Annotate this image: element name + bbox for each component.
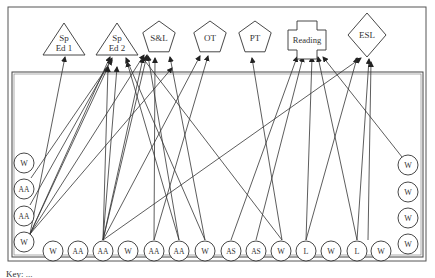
referral-arrow — [126, 58, 205, 240]
student-label: AA — [19, 185, 30, 194]
student-node: W — [398, 182, 418, 202]
student-node: AS — [221, 241, 241, 261]
caption-fragment: Key: ... — [6, 269, 33, 278]
service-label: Ed 1 — [56, 43, 73, 53]
service-label: PT — [250, 33, 261, 43]
student-label: AS — [226, 247, 236, 256]
referral-arrow — [154, 58, 155, 240]
service-node-sl: S&L — [143, 21, 175, 52]
student-node: AA — [14, 179, 34, 199]
referral-arrow — [142, 57, 282, 240]
student-nodes: WAAAAWWAAAAWAAAAWASASWLWLWWWWW — [14, 153, 418, 261]
student-node: W — [398, 155, 418, 175]
student-node: W — [371, 241, 391, 261]
student-label: W — [404, 161, 412, 170]
student-label: L — [304, 247, 309, 256]
referral-arrow — [31, 60, 112, 178]
student-label: W — [20, 238, 28, 247]
referral-arrow — [252, 58, 282, 240]
inner-frame — [12, 72, 423, 257]
student-node: AS — [246, 241, 266, 261]
service-label: Sp — [59, 33, 69, 43]
referral-arrow — [30, 68, 172, 234]
student-label: AS — [251, 247, 261, 256]
student-label: W — [124, 247, 132, 256]
referral-arrow — [30, 55, 144, 234]
inner-frame-inner-line — [14, 74, 421, 255]
student-node: AA — [169, 241, 189, 261]
service-node-esl: ESL — [348, 13, 386, 57]
student-label: AA — [19, 212, 30, 221]
student-node: W — [195, 241, 215, 261]
service-node-ot: OT — [194, 21, 226, 52]
referral-arrow — [103, 55, 147, 240]
student-label: W — [20, 159, 28, 168]
student-node: L — [347, 241, 367, 261]
student-node: W — [321, 241, 341, 261]
student-node: L — [296, 241, 316, 261]
service-label: OT — [204, 33, 216, 43]
service-node-sped2: SpEd 2 — [96, 23, 138, 55]
referral-arrow — [368, 62, 371, 240]
service-label: Reading — [293, 35, 322, 45]
student-label: W — [404, 214, 412, 223]
student-label: W — [377, 247, 385, 256]
student-node: W — [43, 241, 63, 261]
service-node-reading: Reading — [288, 21, 326, 59]
service-label: Sp — [112, 33, 122, 43]
service-node-pt: PT — [239, 21, 271, 52]
student-label: AA — [98, 247, 109, 256]
student-label: W — [327, 247, 335, 256]
student-label: W — [277, 247, 285, 256]
student-label: AA — [73, 247, 84, 256]
referral-arrow — [231, 57, 297, 240]
referral-arrow — [357, 59, 369, 240]
student-label: AA — [149, 247, 160, 256]
referral-arrow — [148, 56, 179, 240]
referral-arrow — [306, 57, 312, 240]
referral-arrows — [30, 55, 402, 240]
referral-arrow — [306, 58, 357, 240]
student-node: AA — [14, 206, 34, 226]
referral-arrow — [256, 57, 303, 240]
sociogram-diagram: SpEd 1SpEd 2S&LOTPTReadingESL WAAAAWWAAA… — [0, 0, 435, 278]
student-label: L — [355, 247, 360, 256]
referral-arrow — [30, 57, 65, 234]
referral-arrow — [103, 56, 200, 240]
referral-arrow — [103, 58, 143, 240]
student-label: AA — [174, 247, 185, 256]
student-node: W — [398, 208, 418, 228]
student-node: W — [398, 234, 418, 254]
service-node-sped1: SpEd 1 — [43, 23, 85, 55]
service-label: Ed 2 — [109, 43, 126, 53]
student-node: W — [271, 241, 291, 261]
student-node: AA — [93, 241, 113, 261]
student-label: W — [404, 240, 412, 249]
student-node: W — [14, 232, 34, 252]
student-label: W — [49, 247, 57, 256]
student-node: AA — [144, 241, 164, 261]
student-node: AA — [68, 241, 88, 261]
service-nodes: SpEd 1SpEd 2S&LOTPTReadingESL — [43, 13, 386, 59]
student-label: W — [404, 188, 412, 197]
student-node: W — [14, 153, 34, 173]
service-label: S&L — [150, 33, 168, 43]
service-label: ESL — [359, 30, 375, 40]
referral-arrow — [127, 62, 179, 240]
referral-arrow — [30, 58, 112, 205]
student-node: W — [118, 241, 138, 261]
student-label: W — [201, 247, 209, 256]
referral-arrow — [103, 58, 361, 240]
